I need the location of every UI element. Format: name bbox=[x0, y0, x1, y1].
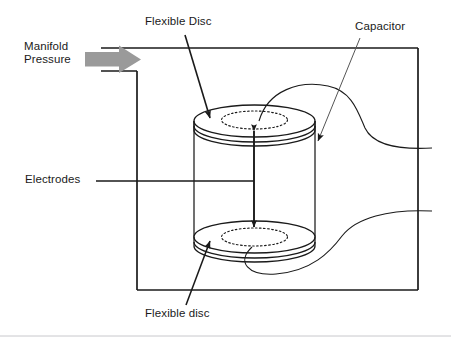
sensor-housing-outline bbox=[101, 48, 418, 290]
flexible-disc-bottom-pointer-icon bbox=[186, 241, 210, 305]
label-manifold-pressure: Manifold Pressure bbox=[24, 40, 71, 66]
label-flexible-disc-top: Flexible Disc bbox=[145, 15, 211, 28]
label-electrodes: Electrodes bbox=[25, 173, 80, 186]
diagram-root: Manifold Pressure Flexible Disc Capacito… bbox=[0, 0, 451, 343]
right-block-arrow-icon bbox=[85, 46, 141, 74]
label-capacitor: Capacitor bbox=[355, 20, 405, 33]
label-flexible-disc-bottom: Flexible disc bbox=[145, 307, 210, 320]
bottom-flexible-disc bbox=[194, 221, 315, 262]
pressure-arrow-body bbox=[85, 46, 141, 74]
capacitor-pointer-icon bbox=[318, 38, 360, 141]
